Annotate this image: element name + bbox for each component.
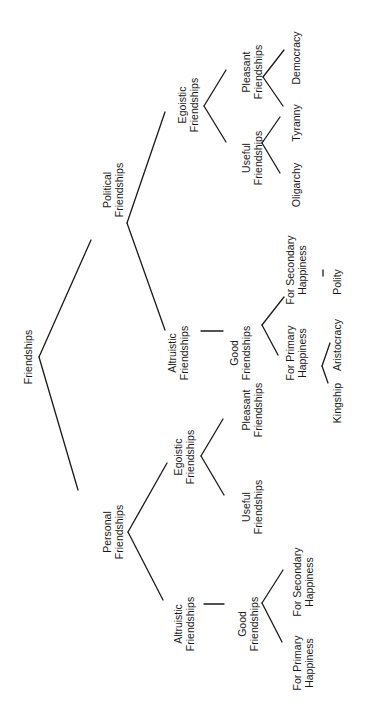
tree-labels: FriendshipsPoliticalFriendshipsAltruisti…	[22, 31, 343, 691]
node-label-line: Friendships	[184, 597, 196, 651]
node-democracy: Democracy	[290, 31, 302, 85]
node-label-line: Friendships	[113, 163, 125, 217]
edge-political-primary-to-aristocracy	[322, 343, 330, 366]
edge-personal-good-to-personal-secondary	[262, 570, 283, 603]
edge-political-pleasant-to-democracy	[263, 50, 284, 77]
node-label-line: Useful	[240, 143, 252, 173]
node-label-line: Friendships	[178, 326, 190, 380]
node-label-line: Altruistic	[172, 604, 184, 644]
node-political-good: GoodFriendships	[228, 326, 252, 380]
node-tyranny: Tyranny	[290, 104, 302, 142]
node-label-line: Democracy	[290, 31, 302, 85]
node-personal-secondary: For SecondaryHappiness	[291, 547, 315, 617]
node-label-line: Oligarchy	[290, 162, 302, 207]
node-kingship: Kingship	[331, 383, 343, 423]
node-label-line: Egoistic	[176, 87, 188, 124]
node-label-line: Kingship	[331, 383, 343, 423]
node-political-pleasant: PleasantFriendships	[240, 45, 264, 99]
node-label-line: For Secondary	[291, 547, 303, 617]
node-label-line: For Secondary	[284, 235, 296, 305]
edge-personal-egoistic-to-personal-useful	[201, 456, 224, 495]
node-label-line: Political	[101, 172, 113, 208]
edge-political-egoistic-to-political-pleasant	[204, 70, 226, 106]
node-label-line: Tyranny	[290, 104, 302, 142]
node-label-line: Egoistic	[172, 439, 184, 476]
node-political-altruistic: AltruisticFriendships	[166, 326, 190, 380]
node-political: PoliticalFriendships	[101, 163, 125, 217]
edge-political-primary-to-kingship	[322, 366, 328, 383]
edge-political-to-political-altruistic	[127, 223, 165, 330]
node-label-line: Friendships	[240, 326, 252, 380]
node-oligarchy: Oligarchy	[290, 162, 302, 207]
edge-political-egoistic-to-political-useful	[204, 106, 226, 142]
edge-political-useful-to-oligarchy	[262, 143, 280, 173]
node-label-line: Happiness	[296, 328, 308, 378]
node-label-line: Friendships	[184, 430, 196, 484]
node-political-egoistic: EgoisticFriendships	[176, 78, 200, 132]
edge-political-to-political-egoistic	[127, 112, 165, 223]
node-personal-primary: For PrimaryHappiness	[291, 635, 315, 691]
node-personal-good: GoodFriendships	[236, 597, 260, 651]
edge-personal-to-personal-egoistic	[128, 463, 167, 532]
node-label-line: Friendships	[188, 78, 200, 132]
node-label-line: For Primary	[284, 325, 296, 381]
node-label-line: Good	[236, 611, 248, 637]
edge-political-good-to-political-secondary	[262, 297, 284, 325]
node-political-useful: UsefulFriendships	[240, 131, 264, 185]
node-label-line: Personal	[101, 511, 113, 552]
node-label-line: Friendships	[22, 330, 34, 384]
node-personal: PersonalFriendships	[101, 505, 125, 559]
node-label-line: Good	[228, 340, 240, 366]
node-root: Friendships	[22, 330, 34, 384]
node-label-line: Friendships	[252, 480, 264, 534]
node-personal-egoistic: EgoisticFriendships	[172, 430, 196, 484]
node-label-line: Happiness	[296, 245, 308, 295]
edge-personal-egoistic-to-personal-pleasant	[201, 419, 223, 456]
node-political-primary: For PrimaryHappiness	[284, 325, 308, 381]
node-personal-altruistic: AltruisticFriendships	[172, 597, 196, 651]
node-aristocracy: Aristocracy	[331, 318, 343, 371]
node-label-line: Useful	[240, 492, 252, 522]
node-political-secondary: For SecondaryHappiness	[284, 235, 308, 305]
node-label-line: Altruistic	[166, 333, 178, 373]
edge-political-useful-to-tyranny	[262, 117, 280, 143]
node-label-line: Aristocracy	[331, 318, 343, 371]
node-label-line: Pleasant	[240, 51, 252, 92]
node-label-line: Friendships	[252, 383, 264, 437]
node-label-line: Polity	[331, 268, 343, 294]
edge-root-to-political	[39, 240, 91, 357]
node-label-line: Friendships	[252, 131, 264, 185]
edge-root-to-personal	[39, 357, 78, 490]
node-personal-useful: UsefulFriendships	[240, 480, 264, 534]
node-polity: Polity	[331, 268, 343, 294]
node-label-line: Happiness	[303, 557, 315, 607]
node-label-line: Friendships	[113, 505, 125, 559]
node-label-line: For Primary	[291, 635, 303, 691]
edge-personal-to-personal-altruistic	[128, 532, 163, 600]
node-label-line: Friendships	[252, 45, 264, 99]
edge-political-good-to-political-primary	[262, 325, 278, 355]
node-label-line: Friendships	[248, 597, 260, 651]
node-label-line: Pleasant	[240, 389, 252, 430]
node-personal-pleasant: PleasantFriendships	[240, 383, 264, 437]
edge-political-pleasant-to-tyranny	[263, 77, 283, 106]
edge-personal-good-to-personal-primary	[262, 603, 282, 642]
node-label-line: Happiness	[303, 638, 315, 688]
friendships-tree-diagram: FriendshipsPoliticalFriendshipsAltruisti…	[0, 0, 366, 704]
